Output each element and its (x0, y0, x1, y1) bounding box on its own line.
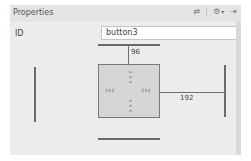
chevron-down-icon[interactable]: ▾ (221, 8, 224, 15)
end-constraint-line (160, 92, 225, 93)
end-constraint-bar[interactable] (224, 65, 226, 117)
left-chevrons-icon[interactable]: ››› (105, 88, 115, 93)
divider (206, 7, 207, 16)
top-chevrons-icon[interactable]: ⌄⌄⌄ (125, 69, 135, 84)
properties-panel: Properties ⇄ ⚙ ▾ ⇥ ID button3 96 192 ⌄⌄⌄… (10, 5, 241, 155)
panel-title: Properties (13, 8, 53, 17)
top-constraint-line (128, 45, 129, 64)
scrollbar[interactable] (236, 22, 241, 155)
gear-icon[interactable]: ⚙ (213, 7, 220, 16)
pin-icon[interactable]: ⇥ (230, 7, 237, 16)
top-constraint-bar[interactable] (98, 44, 160, 46)
bottom-constraint-bar[interactable] (98, 138, 160, 140)
bottom-chevrons-icon[interactable]: ⌃⌃⌃ (125, 101, 135, 116)
panel-header: Properties ⇄ ⚙ ▾ ⇥ (10, 5, 241, 22)
top-margin-value[interactable]: 96 (131, 48, 140, 56)
id-input[interactable]: button3 (101, 26, 239, 40)
header-toolbar: ⇄ ⚙ ▾ ⇥ (193, 7, 237, 16)
end-margin-value[interactable]: 192 (180, 94, 193, 102)
right-chevrons-icon[interactable]: ‹‹‹ (141, 88, 151, 93)
start-constraint-bar[interactable] (34, 67, 36, 122)
id-label: ID (15, 29, 24, 38)
swap-arrows-icon[interactable]: ⇄ (193, 7, 200, 16)
view-inspector-box: ⌄⌄⌄ ››› ‹‹‹ ⌃⌃⌃ (98, 64, 160, 118)
